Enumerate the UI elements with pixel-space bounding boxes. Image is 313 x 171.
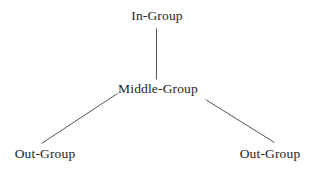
node-out-group-left: Out-Group [15,146,76,162]
edge-middle-group-to-out-group-right [206,100,275,143]
diagram-canvas: In-Group Middle-Group Out-Group Out-Grou… [0,0,313,171]
node-middle-group: Middle-Group [118,81,198,97]
node-in-group: In-Group [131,8,182,24]
node-out-group-right: Out-Group [240,146,301,162]
edge-middle-group-to-out-group-left [42,94,118,144]
